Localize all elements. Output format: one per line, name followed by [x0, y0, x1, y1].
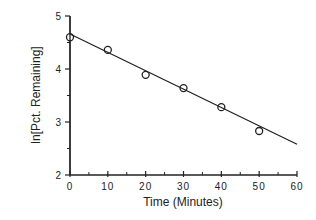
tick-labels: 01020304050602345	[55, 11, 303, 193]
fit-line	[70, 34, 297, 144]
y-tick-label: 2	[55, 170, 61, 181]
x-tick-label: 50	[253, 181, 266, 192]
y-tick-label: 5	[55, 11, 61, 22]
data-point-marker	[256, 128, 263, 135]
x-tick-label: 30	[177, 181, 190, 192]
axes	[70, 16, 297, 175]
y-tick-label: 3	[55, 117, 61, 128]
x-tick-label: 20	[139, 181, 152, 192]
ticks	[65, 16, 297, 177]
y-tick-label: 4	[55, 64, 61, 75]
x-axis-label: Time (Minutes)	[143, 195, 223, 209]
x-tick-label: 40	[215, 181, 228, 192]
data-series	[67, 16, 298, 175]
x-tick-label: 0	[67, 181, 74, 192]
chart: 01020304050602345 Time (Minutes) ln[Pct.…	[0, 0, 316, 220]
y-axis-label: ln[Pct. Remaining]	[29, 46, 43, 143]
x-tick-label: 10	[101, 181, 114, 192]
x-tick-label: 60	[290, 181, 303, 192]
